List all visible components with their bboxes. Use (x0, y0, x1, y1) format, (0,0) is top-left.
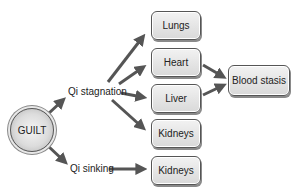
heart-box: Heart (151, 48, 201, 77)
guilt-label: GUILT (18, 125, 47, 136)
kidneys-box-sinking: Kidneys (151, 156, 201, 185)
arrow-to-kidneys-1 (112, 100, 142, 127)
lungs-label: Lungs (162, 20, 189, 31)
guilt-node: GUILT (10, 108, 54, 152)
arrows-layer (0, 0, 294, 196)
qi-sinking-label: Qi sinking (70, 163, 114, 174)
blood-stasis-label: Blood stasis (232, 75, 286, 86)
kidneys-label: Kidneys (158, 165, 194, 176)
arrow-to-lungs (108, 38, 142, 82)
arrow-liver-to-blood-stasis (203, 86, 222, 95)
liver-box: Liver (151, 84, 201, 113)
arrow-heart-to-blood-stasis (203, 65, 222, 76)
arrow-guilt-to-qi-stagnation (48, 101, 62, 114)
arrow-guilt-to-qi-sinking (48, 146, 64, 161)
lungs-box: Lungs (151, 11, 201, 40)
liver-label: Liver (165, 93, 187, 104)
arrow-to-heart (119, 68, 142, 84)
qi-stagnation-label: Qi stagnation (68, 86, 127, 97)
kidneys-label: Kidneys (158, 128, 194, 139)
heart-label: Heart (164, 57, 188, 68)
kidneys-box-stagnation: Kidneys (151, 119, 201, 148)
blood-stasis-box: Blood stasis (228, 65, 290, 96)
